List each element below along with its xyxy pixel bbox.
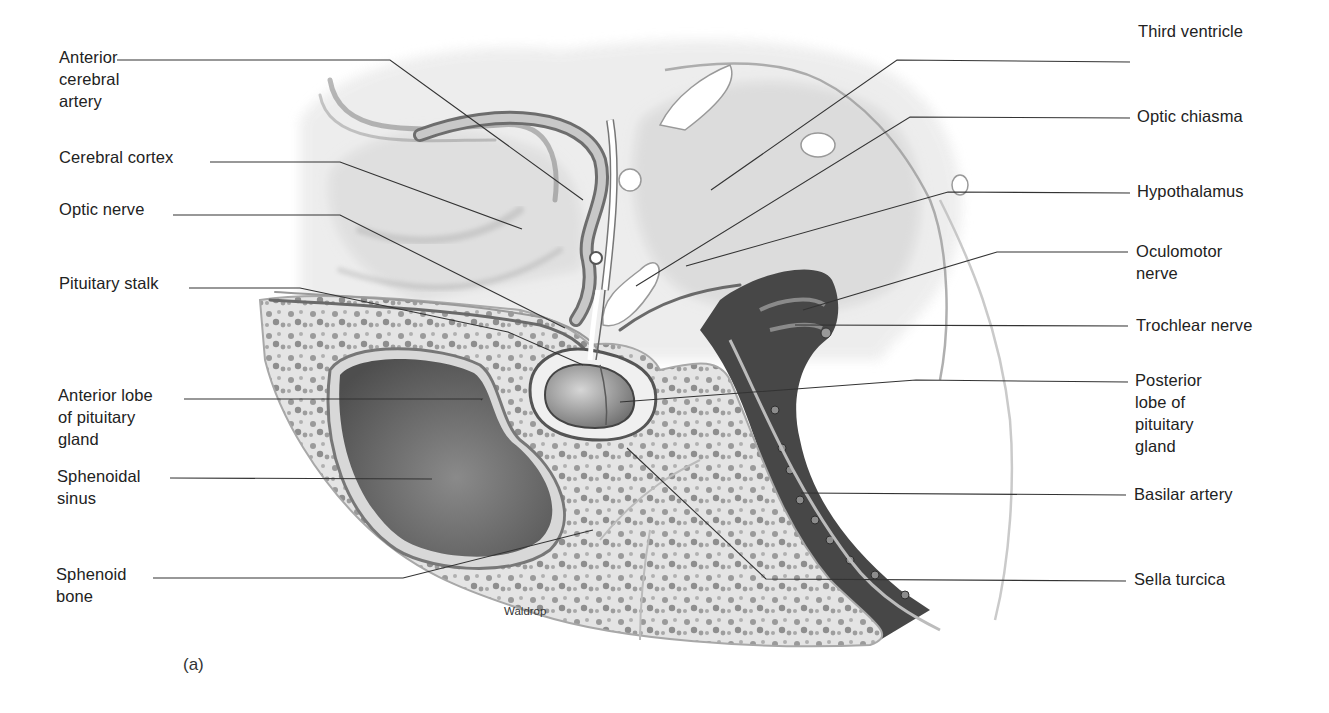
label-posterior-lobe-pituitary: Posterior lobe of pituitary gland [1135,369,1202,457]
panel-label: (a) [183,655,204,675]
label-sphenoidal-sinus: Sphenoidal sinus [57,465,141,509]
label-sella-turcica: Sella turcica [1134,568,1225,590]
label-anterior-cerebral-artery: Anterior cerebral artery [59,46,119,112]
artist-signature: Waldrop [504,605,546,617]
label-trochlear-nerve: Trochlear nerve [1136,314,1252,336]
anatomy-illustration [0,0,1329,713]
label-pituitary-stalk: Pituitary stalk [59,272,159,294]
label-optic-nerve: Optic nerve [59,198,144,220]
label-anterior-lobe-pituitary: Anterior lobe of pituitary gland [58,384,153,450]
label-cerebral-cortex: Cerebral cortex [59,146,173,168]
label-basilar-artery: Basilar artery [1134,483,1233,505]
label-oculomotor-nerve: Oculomotor nerve [1136,240,1222,284]
label-third-ventricle: Third ventricle [1138,20,1243,42]
label-hypothalamus: Hypothalamus [1137,180,1244,202]
label-sphenoid-bone: Sphenoid bone [56,563,127,607]
label-optic-chiasma: Optic chiasma [1137,105,1243,127]
pituitary-anatomy-figure: Anterior cerebral artery Cerebral cortex… [0,0,1329,713]
leader-line-basilar-artery [801,493,1126,495]
